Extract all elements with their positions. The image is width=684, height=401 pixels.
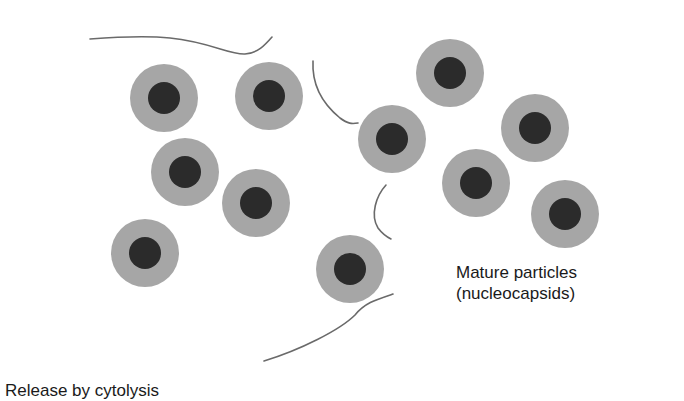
nucleocapsid-core: [549, 198, 581, 230]
nucleocapsid-core: [169, 156, 201, 188]
nucleocapsid-core: [334, 253, 366, 285]
release-by-cytolysis-label: Release by cytolysis: [5, 380, 159, 401]
cytolysis-diagram: Mature particles (nucleocapsids) Release…: [0, 0, 684, 401]
nucleocapsid-particle: [416, 39, 484, 107]
nucleocapsid-core: [129, 237, 161, 269]
nucleocapsid-particle: [442, 149, 510, 217]
mature-particles-label-line2: (nucleocapsids): [456, 283, 577, 304]
membrane-fragment-line: [90, 37, 272, 54]
membrane-fragment-line: [374, 185, 391, 239]
membrane-fragment-line: [264, 294, 393, 361]
mature-particles-label-line1: Mature particles: [456, 262, 577, 283]
nucleocapsid-core: [148, 82, 180, 114]
nucleocapsid-particle: [151, 138, 219, 206]
nucleocapsid-core: [240, 187, 272, 219]
nucleocapsid-particle: [316, 235, 384, 303]
nucleocapsid-core: [434, 57, 466, 89]
membrane-fragment-line: [313, 61, 358, 123]
nucleocapsid-core: [253, 80, 285, 112]
nucleocapsid-particle: [501, 94, 569, 162]
nucleocapsid-core: [376, 123, 408, 155]
nucleocapsid-core: [519, 112, 551, 144]
nucleocapsid-particle: [130, 64, 198, 132]
nucleocapsid-particle: [358, 105, 426, 173]
nucleocapsid-particle: [531, 180, 599, 248]
nucleocapsid-particle: [222, 169, 290, 237]
mature-particles-label: Mature particles (nucleocapsids): [456, 262, 577, 304]
nucleocapsid-core: [460, 167, 492, 199]
nucleocapsid-particle: [111, 219, 179, 287]
nucleocapsid-particle: [235, 62, 303, 130]
